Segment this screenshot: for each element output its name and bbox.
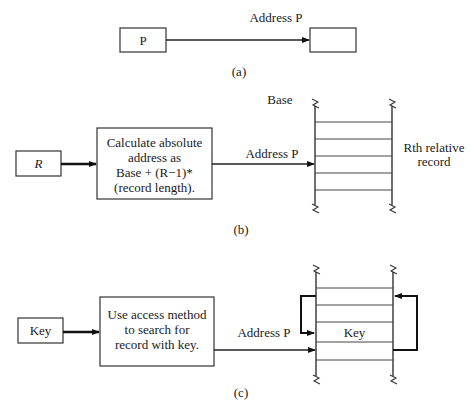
address-arrow-label: Address P (249, 10, 302, 25)
panel-a: P Address P (a) (120, 10, 356, 79)
panel-c: Key Use access method to search for reco… (18, 265, 417, 400)
panel-caption: (a) (232, 64, 246, 79)
search-loop-left-arrow (301, 296, 316, 333)
process-line-3: Base + (R−1)* (116, 165, 193, 180)
search-loop-right-arrow (393, 296, 417, 350)
process-line-1: Calculate absolute (107, 135, 203, 150)
key-input-label: Key (30, 323, 52, 338)
panel-caption: (c) (234, 385, 248, 400)
base-label: Base (267, 92, 293, 107)
target-record-box (310, 28, 356, 52)
process-line-2: address as (128, 150, 181, 165)
address-arrow-label: Address P (237, 325, 290, 340)
break-mark-icon (313, 375, 320, 384)
pointer-box-label: P (139, 33, 146, 48)
process-line-2: to search for (125, 322, 191, 337)
rth-record-label-1: Rth relative (403, 140, 464, 155)
panel-caption: (b) (233, 222, 248, 237)
break-mark-icon (390, 375, 397, 384)
panel-b: R Calculate absolute address as Base + (… (16, 92, 465, 237)
key-record-label: Key (344, 325, 366, 340)
rth-record-label-2: record (417, 154, 451, 169)
process-line-1: Use access method (108, 307, 207, 322)
file-access-diagram: P Address P (a) R Calculate absolute add… (0, 0, 471, 409)
address-arrow-label: Address P (245, 146, 298, 161)
process-line-4: (record length). (114, 180, 195, 195)
break-mark-icon (312, 204, 319, 213)
process-line-3: record with key. (115, 337, 199, 352)
relative-record-number-label: R (34, 156, 43, 171)
record-storage: Key (313, 265, 397, 384)
break-mark-icon (389, 204, 396, 213)
